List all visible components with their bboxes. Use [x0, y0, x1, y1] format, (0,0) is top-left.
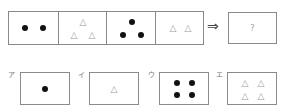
dot-icon — [189, 92, 195, 98]
triangle-icon: △ — [240, 92, 250, 101]
triangle-icon: △ — [256, 92, 266, 101]
option-i[interactable]: △ — [89, 72, 139, 105]
option-e[interactable]: △ △ △ △ — [227, 72, 277, 105]
triangle-icon: △ — [78, 18, 88, 27]
dot-icon — [120, 32, 126, 38]
sequence-cell-4: △ △ — [155, 12, 203, 44]
dot-icon — [174, 92, 180, 98]
dot-icon — [189, 80, 195, 86]
dot-icon — [22, 25, 28, 31]
triangle-icon: △ — [168, 24, 178, 33]
option-u[interactable] — [159, 72, 209, 105]
option-label-i: イ — [78, 69, 85, 79]
triangle-icon: △ — [256, 79, 266, 88]
sequence-row: △ △ △ △ △ — [8, 11, 204, 45]
answer-box: ? — [228, 12, 277, 44]
triangle-icon: △ — [87, 31, 97, 40]
triangle-icon: △ — [183, 24, 193, 33]
question-mark: ? — [229, 23, 276, 33]
dot-icon — [129, 19, 135, 25]
triangle-icon: △ — [69, 31, 79, 40]
sequence-cell-2: △ △ △ — [58, 12, 106, 44]
option-label-a: ア — [8, 69, 15, 79]
triangle-icon: △ — [240, 79, 250, 88]
dot-icon — [40, 25, 46, 31]
option-label-u: ウ — [148, 69, 155, 79]
option-a[interactable] — [20, 72, 70, 105]
sequence-cell-3 — [106, 12, 155, 44]
dot-icon — [174, 80, 180, 86]
option-label-e: エ — [216, 69, 223, 79]
dot-icon — [138, 32, 144, 38]
triangle-icon: △ — [109, 85, 119, 94]
sequence-cell-1 — [9, 12, 58, 44]
dot-icon — [42, 86, 48, 92]
implies-arrow-icon: ⇒ — [207, 19, 219, 33]
